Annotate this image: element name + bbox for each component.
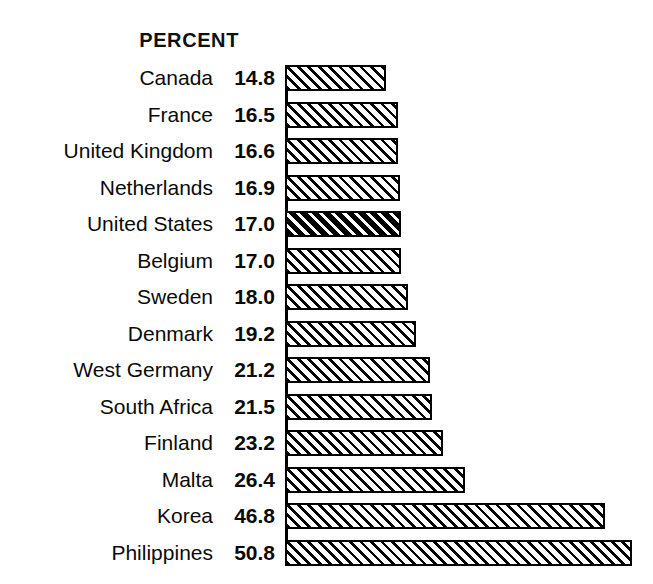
row-category-label: Belgium [137, 250, 213, 272]
chart-row: France16.5 [0, 97, 653, 134]
bar [285, 284, 408, 310]
row-label-block: West Germany21.2 [0, 352, 277, 389]
row-value-label: 17.0 [213, 213, 275, 235]
bar [285, 430, 443, 456]
row-category-label: Finland [144, 432, 213, 454]
chart-row: Belgium17.0 [0, 243, 653, 280]
row-label-block: Malta26.4 [0, 462, 277, 499]
row-label-block: Belgium17.0 [0, 243, 277, 280]
chart-row: South Africa21.5 [0, 389, 653, 426]
chart-row: United Kingdom16.6 [0, 133, 653, 170]
row-label-block: Netherlands16.9 [0, 170, 277, 207]
row-label-block: Korea46.8 [0, 498, 277, 535]
bar [285, 357, 430, 383]
chart-row: Philippines50.8 [0, 535, 653, 572]
row-category-label: Korea [157, 505, 213, 527]
row-category-label: South Africa [100, 396, 213, 418]
bar [285, 467, 465, 493]
chart-row: Denmark19.2 [0, 316, 653, 353]
row-value-label: 14.8 [213, 67, 275, 89]
row-value-label: 19.2 [213, 323, 275, 345]
chart-row: Netherlands16.9 [0, 170, 653, 207]
row-category-label: United Kingdom [64, 140, 213, 162]
row-label-block: Finland23.2 [0, 425, 277, 462]
row-label-block: Sweden18.0 [0, 279, 277, 316]
chart-rows: Canada14.8France16.5United Kingdom16.6Ne… [0, 0, 653, 584]
bar-chart: PERCENT Canada14.8France16.5United Kingd… [0, 0, 653, 584]
row-value-label: 46.8 [213, 505, 275, 527]
row-value-label: 21.2 [213, 359, 275, 381]
bar [285, 503, 605, 529]
chart-row: Sweden18.0 [0, 279, 653, 316]
row-value-label: 21.5 [213, 396, 275, 418]
row-label-block: South Africa21.5 [0, 389, 277, 426]
bar-highlighted [285, 211, 401, 237]
bar [285, 321, 416, 347]
row-category-label: Canada [139, 67, 213, 89]
bar [285, 138, 398, 164]
chart-row: Korea46.8 [0, 498, 653, 535]
row-category-label: Netherlands [100, 177, 213, 199]
row-value-label: 26.4 [213, 469, 275, 491]
row-label-block: France16.5 [0, 97, 277, 134]
chart-row: Malta26.4 [0, 462, 653, 499]
bar [285, 540, 632, 566]
bar [285, 248, 401, 274]
row-value-label: 23.2 [213, 432, 275, 454]
row-value-label: 16.9 [213, 177, 275, 199]
row-label-block: Canada14.8 [0, 60, 277, 97]
row-category-label: France [148, 104, 213, 126]
row-category-label: Sweden [137, 286, 213, 308]
row-value-label: 16.6 [213, 140, 275, 162]
row-category-label: West Germany [73, 359, 213, 381]
bar [285, 175, 400, 201]
bar [285, 394, 432, 420]
row-category-label: Philippines [111, 542, 213, 564]
row-value-label: 50.8 [213, 542, 275, 564]
row-category-label: Denmark [128, 323, 213, 345]
row-value-label: 18.0 [213, 286, 275, 308]
row-value-label: 16.5 [213, 104, 275, 126]
row-category-label: Malta [162, 469, 213, 491]
row-value-label: 17.0 [213, 250, 275, 272]
row-label-block: Philippines50.8 [0, 535, 277, 572]
bar [285, 65, 386, 91]
chart-row: Canada14.8 [0, 60, 653, 97]
row-category-label: United States [87, 213, 213, 235]
row-label-block: United Kingdom16.6 [0, 133, 277, 170]
row-label-block: United States17.0 [0, 206, 277, 243]
chart-row: United States17.0 [0, 206, 653, 243]
bar [285, 102, 398, 128]
chart-row: West Germany21.2 [0, 352, 653, 389]
row-label-block: Denmark19.2 [0, 316, 277, 353]
chart-row: Finland23.2 [0, 425, 653, 462]
